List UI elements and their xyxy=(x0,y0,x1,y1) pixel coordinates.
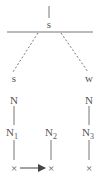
right-n3-label: N3 xyxy=(82,126,94,141)
left-dashed-branch xyxy=(13,33,38,72)
right-n-label: N xyxy=(85,94,93,106)
right-leaf-x: × xyxy=(86,162,92,174)
left-n1-label: N1 xyxy=(6,126,18,141)
left-n-label: N xyxy=(10,94,18,106)
left-leaf-x: × xyxy=(11,162,17,174)
root-label: s xyxy=(47,18,51,30)
right-dashed-branch xyxy=(61,33,88,72)
middle-n2-label: N2 xyxy=(45,126,57,141)
right-top-label: w xyxy=(85,72,93,84)
syntax-tree-diagram: s s N N1 × N2 × w N N3 × xyxy=(0,0,102,177)
middle-leaf-x: × xyxy=(48,162,54,174)
left-top-label: s xyxy=(12,72,16,84)
